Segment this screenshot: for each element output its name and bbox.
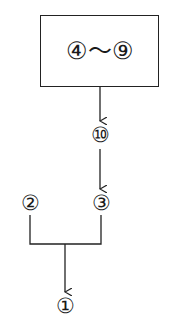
node-3: ③: [89, 191, 113, 215]
node-10: ⑩: [88, 123, 112, 147]
edge-merge-2-3: [30, 215, 101, 244]
node-2: ②: [18, 191, 42, 215]
node-1: ①: [53, 294, 77, 318]
process-box-4-to-9: ④～⑨: [40, 15, 159, 87]
box-label: ④～⑨: [41, 37, 158, 65]
